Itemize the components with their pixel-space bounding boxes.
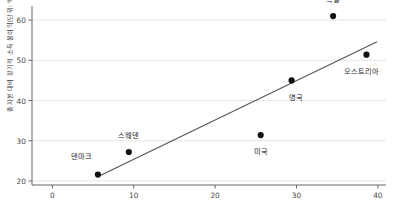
trendline <box>99 42 377 176</box>
data-point[interactable] <box>363 52 369 58</box>
plot-area <box>0 0 394 215</box>
data-point[interactable] <box>289 77 295 83</box>
data-point-label: 미국 <box>254 146 268 156</box>
data-point-label: 독일 <box>326 0 340 4</box>
data-point[interactable] <box>95 171 101 177</box>
data-point-label: 덴마크 <box>71 151 92 161</box>
data-point[interactable] <box>258 132 264 138</box>
data-point-label: 오스트리아 <box>344 66 379 76</box>
data-point[interactable] <box>330 13 336 19</box>
data-point-label: 스웨덴 <box>118 130 139 140</box>
data-point[interactable] <box>126 149 132 155</box>
scatter-chart: 총자본 대비 장기적 소득 불이익(단위: %) 2030405060 0102… <box>0 0 394 215</box>
data-point-label: 영국 <box>289 92 303 102</box>
